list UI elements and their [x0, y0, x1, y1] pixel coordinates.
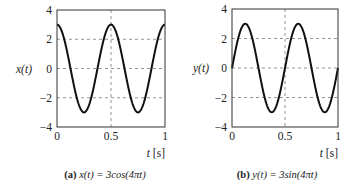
x-axis-label: t [s]	[320, 147, 338, 159]
y-tick-label: −4	[40, 121, 52, 133]
y-axis-label: x(t)	[15, 63, 32, 76]
y-tick-label: 2	[46, 33, 52, 45]
y-tick-label: 0	[221, 62, 227, 74]
x-axis-label: t [s]	[147, 147, 165, 159]
y-tick-label: 2	[221, 33, 227, 45]
x-tick-label: 0	[54, 130, 60, 142]
x-tick-label: 0.5	[104, 130, 119, 142]
caption-b: (b) y(t) = 3sin(4πt)	[237, 169, 318, 181]
y-axis-label: y(t)	[192, 62, 209, 75]
y-tick-label: 4	[46, 4, 52, 16]
x-tick-label: 1	[162, 130, 168, 142]
y-tick-label: −4	[215, 121, 227, 133]
y-tick-label: 0	[46, 63, 52, 75]
y-tick-label: −2	[215, 92, 227, 104]
plot-panel-a: 420−2−400.51x(t)t [s](a) x(t) = 3cos(4πt…	[15, 4, 168, 181]
plot-panel-b: 420−2−400.51y(t)t [s](b) y(t) = 3sin(4πt…	[192, 3, 341, 181]
x-tick-label: 0.5	[278, 130, 293, 142]
x-tick-label: 1	[335, 130, 341, 142]
y-tick-label: 4	[221, 3, 227, 15]
y-tick-label: −2	[40, 92, 52, 104]
x-tick-label: 0	[229, 130, 235, 142]
caption-a: (a) x(t) = 3cos(4πt)	[64, 169, 146, 181]
figure: 420−2−400.51x(t)t [s](a) x(t) = 3cos(4πt…	[0, 0, 356, 189]
